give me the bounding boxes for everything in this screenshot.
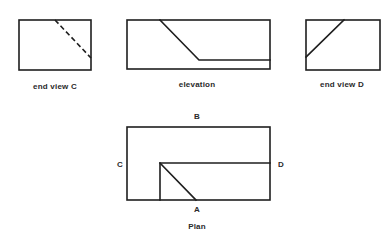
end-view-c-caption: end view C: [33, 82, 77, 91]
plan-marker-c: C: [117, 160, 123, 169]
elevation-drawing: [127, 20, 270, 69]
plan-marker-a: A: [194, 205, 200, 214]
end-view-d-caption: end view D: [320, 80, 364, 89]
plan-marker-d: D: [278, 160, 284, 169]
end-view-d-outline: [306, 20, 380, 70]
plan-drawing: [127, 127, 270, 200]
plan-marker-b: B: [194, 112, 200, 121]
end-view-c-outline: [19, 20, 91, 70]
elevation-caption: elevation: [179, 80, 215, 89]
elevation-outline: [127, 20, 270, 69]
elevation-slope-edge: [160, 20, 270, 60]
plan-caption: Plan: [188, 222, 206, 231]
end-view-d-drawing: [306, 20, 380, 70]
plan-diagonal-edge: [160, 163, 196, 200]
end-view-c-hidden-edge: [55, 20, 91, 58]
end-view-c-drawing: [19, 20, 91, 70]
end-view-d-slope-edge: [306, 20, 344, 57]
plan-inner-outline: [160, 163, 270, 200]
